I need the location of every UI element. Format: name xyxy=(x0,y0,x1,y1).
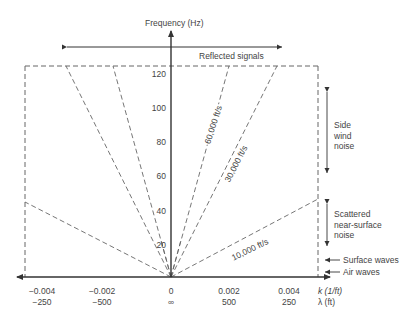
y-tick-20: 20 xyxy=(146,240,166,250)
x-axis-label-k: k (1/ft) xyxy=(318,286,342,296)
x-tick-k-pos-002: 0.002 xyxy=(207,286,251,296)
y-tick-40: 40 xyxy=(146,206,166,216)
x-tick-lambda-inf: ∞ xyxy=(149,297,193,307)
y-axis-label: Frequency (Hz) xyxy=(145,18,204,28)
side-wind-noise-label: Side wind noise xyxy=(334,120,354,152)
scattered-noise-label: Scattered near-surface noise xyxy=(334,209,382,241)
y-tick-120: 120 xyxy=(146,69,166,79)
air-waves-label: Air waves xyxy=(343,267,380,277)
x-tick-k-neg-002: −0.002 xyxy=(80,286,124,296)
x-tick-k-pos-004: 0.004 xyxy=(267,286,311,296)
line-pos-10000 xyxy=(171,199,318,277)
x-tick-lambda-pos-500: 500 xyxy=(207,297,251,307)
surface-waves-label: Surface waves xyxy=(343,255,399,265)
x-tick-lambda-pos-250: 250 xyxy=(267,297,311,307)
reflected-signals-label: Reflected signals xyxy=(199,51,264,61)
y-tick-80: 80 xyxy=(146,137,166,147)
y-tick-100: 100 xyxy=(146,103,166,113)
x-tick-lambda-neg-250: −250 xyxy=(20,297,64,307)
y-tick-60: 60 xyxy=(146,171,166,181)
x-tick-k-neg-004: −0.004 xyxy=(20,286,64,296)
x-axis-label-lambda: λ (ft) xyxy=(318,297,335,307)
x-tick-k-0: 0 xyxy=(149,286,193,296)
x-tick-lambda-neg-500: −500 xyxy=(80,297,124,307)
